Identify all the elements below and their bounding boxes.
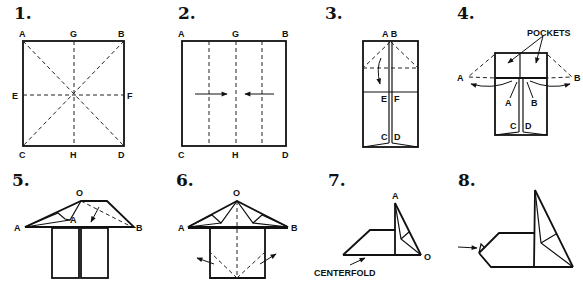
label-g: G (232, 29, 239, 39)
label-c: C (510, 121, 517, 131)
label-a: A (178, 223, 185, 233)
label-e: E (381, 94, 387, 104)
label-d: D (282, 150, 289, 160)
step-7: 7. A O CENTERFOLD (314, 170, 431, 278)
label-ab: A B (382, 29, 398, 39)
leader-line (527, 82, 533, 98)
label-o: O (424, 252, 431, 262)
label-a-inner: A (70, 215, 77, 225)
step-number: 3. (325, 3, 343, 23)
label-o: O (76, 188, 83, 198)
label-h: H (70, 150, 77, 160)
label-b: B (291, 223, 298, 233)
step-2: 2. A G B C H D (178, 3, 289, 160)
centerfold-label: CENTERFOLD (314, 268, 376, 278)
pull-out-left (468, 55, 495, 78)
boat-bottom (479, 253, 573, 267)
step-number: 8. (458, 170, 476, 190)
step-4: 4. POCKETS A B A B C D (457, 3, 581, 135)
label-b: B (136, 223, 143, 233)
label-g: G (70, 29, 77, 39)
push-arrow (458, 247, 477, 248)
right-leg (81, 228, 108, 278)
label-b: B (282, 29, 289, 39)
diagonal-fold-line (391, 42, 418, 68)
step-3: 3. A B E F C D (325, 3, 418, 147)
label-f: F (394, 94, 400, 104)
centerfold-arrow (350, 258, 365, 265)
left-leg (52, 228, 79, 278)
boat-hull (479, 233, 534, 253)
pocket-arrow-left (508, 36, 543, 63)
fold-down-arrow (378, 58, 381, 84)
label-e: E (12, 91, 18, 101)
step-number: 7. (328, 170, 346, 190)
label-c: C (19, 150, 26, 160)
fold-arrow-right (260, 254, 276, 264)
folded-panel (495, 53, 547, 135)
pull-arrow-left (471, 81, 512, 86)
label-h: H (232, 150, 239, 160)
fold-line (81, 201, 130, 226)
hat-shape (188, 201, 288, 227)
pockets-label: POCKETS (527, 28, 571, 38)
origami-diagram: 1. A G B E F C H D 2. A G B C H D 3. (0, 0, 583, 296)
label-a: A (457, 73, 464, 83)
step-6: 6. O A B (176, 170, 298, 278)
label-a: A (19, 29, 26, 39)
step-number: 5. (12, 170, 30, 190)
label-a: A (14, 223, 21, 233)
label-d: D (394, 132, 401, 142)
label-d: D (525, 121, 532, 131)
step-number: 4. (457, 3, 475, 23)
label-a: A (392, 191, 399, 201)
fold-line (237, 252, 265, 278)
folded-panel (363, 41, 418, 147)
fold-line (210, 252, 237, 278)
label-c: C (381, 132, 388, 142)
label-a-inner: A (505, 98, 512, 108)
label-b: B (574, 73, 581, 83)
label-c: C (178, 150, 185, 160)
hat-shape (25, 201, 134, 227)
step-number: 2. (178, 3, 196, 23)
step-1: 1. A G B E F C H D (12, 3, 133, 160)
label-a: A (178, 29, 185, 39)
step-8: 8. (458, 170, 573, 267)
boat-hull (343, 230, 395, 255)
fold-arrow-left (197, 258, 214, 264)
pull-arrow-right (530, 81, 570, 86)
diagonal-fold-line (363, 42, 390, 68)
step-5: 5. O A A B (12, 170, 143, 278)
step-number: 6. (176, 170, 194, 190)
folded-flaps (188, 201, 288, 227)
step-number: 1. (14, 3, 32, 23)
leader-line (510, 82, 517, 98)
label-d: D (118, 150, 125, 160)
label-b: B (118, 29, 125, 39)
fold-arrow (91, 207, 99, 222)
pull-out-right (547, 55, 572, 78)
label-o: O (233, 188, 240, 198)
label-b-inner: B (531, 98, 538, 108)
label-f: F (127, 91, 133, 101)
